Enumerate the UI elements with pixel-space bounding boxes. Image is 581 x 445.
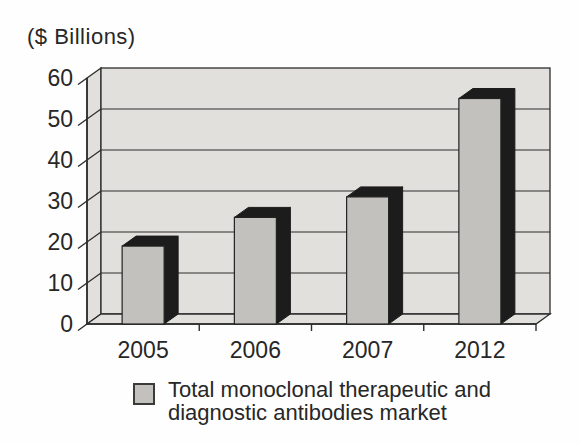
bar-2012-front bbox=[459, 99, 501, 325]
y-tick-0 bbox=[78, 324, 87, 331]
y-tick-label-10: 10 bbox=[47, 270, 73, 296]
bar-2007-side bbox=[389, 187, 403, 324]
y-tick-20 bbox=[78, 242, 87, 249]
x-label-2006: 2006 bbox=[230, 337, 281, 363]
x-label-2012: 2012 bbox=[454, 337, 505, 363]
y-tick-30 bbox=[78, 201, 87, 208]
y-tick-label-40: 40 bbox=[47, 147, 73, 173]
bar-2007-front bbox=[347, 197, 389, 324]
bar-2006-side bbox=[276, 207, 290, 324]
x-label-2005: 2005 bbox=[118, 337, 169, 363]
y-tick-10 bbox=[78, 283, 87, 290]
y-tick-50 bbox=[78, 119, 87, 126]
legend-label-line2: diagnostic antibodies market bbox=[168, 401, 491, 424]
y-tick-label-60: 60 bbox=[47, 65, 73, 91]
y-tick-label-0: 0 bbox=[60, 311, 73, 337]
bar-2005-side bbox=[164, 236, 178, 324]
x-label-2007: 2007 bbox=[342, 337, 393, 363]
y-tick-label-20: 20 bbox=[47, 229, 73, 255]
legend-label: Total monoclonal therapeutic and diagnos… bbox=[168, 378, 491, 424]
legend: Total monoclonal therapeutic and diagnos… bbox=[133, 378, 491, 424]
y-tick-60 bbox=[78, 78, 87, 85]
y-tick-label-50: 50 bbox=[47, 106, 73, 132]
bar-2012-side bbox=[501, 89, 515, 325]
y-tick-label-30: 30 bbox=[47, 188, 73, 214]
bar-2006-front bbox=[234, 217, 276, 324]
legend-label-line1: Total monoclonal therapeutic and bbox=[168, 378, 491, 401]
bar-2005-front bbox=[122, 246, 164, 324]
legend-swatch bbox=[133, 383, 155, 405]
chart-page: ($ Billions) 010203040506020052006200720… bbox=[0, 0, 581, 445]
y-tick-40 bbox=[78, 160, 87, 167]
